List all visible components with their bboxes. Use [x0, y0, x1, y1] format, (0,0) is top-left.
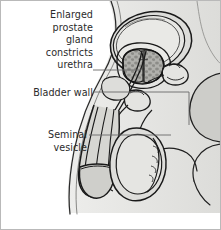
- bladder-wall-label: Bladder wall: [9, 87, 93, 100]
- testis: [116, 134, 161, 194]
- enlarged-prostate-label: Enlarged prostate gland constricts ureth…: [9, 9, 93, 72]
- seminal-vesicle: [162, 64, 188, 85]
- seminal-vesicle-label: Seminal vesicle: [9, 129, 87, 154]
- pubic-bone: [102, 77, 130, 101]
- figure-frame: Enlarged prostate gland constricts ureth…: [0, 0, 221, 230]
